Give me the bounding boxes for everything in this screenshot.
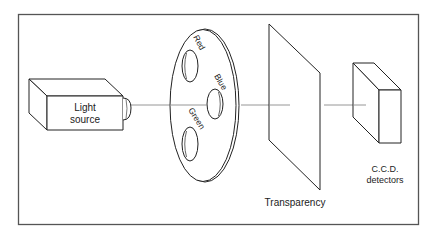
- ccd-scanner-diagram: Light source Red Blue Green Transparency: [0, 0, 436, 235]
- filter-wheel: [170, 29, 239, 182]
- detectors-label-line1: C.C.D.: [372, 164, 399, 174]
- filter-hole-red: [182, 50, 198, 82]
- transparency-label: Transparency: [265, 197, 326, 208]
- detector-front-face: [379, 90, 401, 143]
- light-source-label-line2: source: [70, 114, 100, 125]
- light-source-label-line1: Light: [74, 102, 96, 113]
- filter-wheel-face: [170, 30, 236, 182]
- filter-hole-blue: [207, 89, 223, 119]
- filter-hole-green: [182, 127, 198, 161]
- detectors-label-line2: detectors: [366, 175, 404, 185]
